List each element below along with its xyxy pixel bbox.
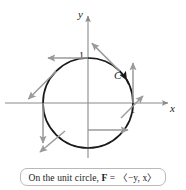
vector-field-figure: x y 1 1 C	[0, 0, 186, 190]
caption-equals: =	[107, 173, 117, 183]
caption-components: 〈−y, x〉	[118, 173, 158, 183]
orientation-arrow	[127, 80, 129, 85]
vector-arrow-135deg	[28, 71, 56, 99]
caption-box: On the unit circle, F = 〈−y, x〉	[20, 168, 166, 186]
vector-field-group	[28, 43, 143, 152]
caption-text: On the unit circle, F = 〈−y, x〉	[29, 170, 158, 184]
x-axis-label: x	[169, 102, 175, 114]
curve-label-C: C	[114, 69, 122, 81]
vector-arrow-45deg	[92, 43, 120, 71]
y-axis-label: y	[77, 8, 83, 20]
caption-prefix: On the unit circle,	[29, 173, 102, 183]
plot-canvas: x y 1 1 C	[0, 0, 186, 190]
axes-group	[5, 16, 168, 158]
